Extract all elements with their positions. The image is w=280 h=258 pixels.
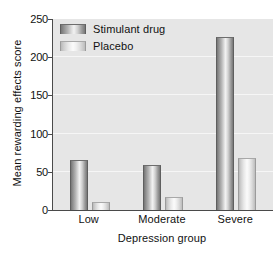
legend-swatch-icon [60, 24, 86, 34]
y-tick-label: 250 [22, 13, 48, 25]
y-tick-label: 0 [22, 204, 48, 216]
x-tick-label: Moderate [138, 213, 185, 225]
x-tick-label: Severe [218, 213, 253, 225]
x-axis-ticks: LowModerateSevere [52, 213, 272, 229]
gridline [53, 94, 273, 95]
y-tick-label: 100 [22, 128, 48, 140]
y-tick-label: 150 [22, 89, 48, 101]
chart-legend: Stimulant drugPlacebo [60, 22, 190, 56]
bar-chart-figure: Mean rewarding effects score 05010015020… [0, 0, 280, 258]
legend-label: Stimulant drug [93, 23, 165, 35]
legend-item: Placebo [60, 39, 190, 53]
legend-item: Stimulant drug [60, 22, 190, 36]
bar [143, 165, 161, 210]
bar [238, 158, 256, 210]
gridline [53, 133, 273, 134]
gridline [53, 56, 273, 57]
y-axis-ticks: 050100150200250 [22, 0, 48, 258]
y-tick-label: 200 [22, 51, 48, 63]
bar [216, 37, 234, 210]
y-tick-label: 50 [22, 166, 48, 178]
legend-swatch-icon [60, 41, 86, 51]
bar [92, 202, 110, 210]
x-tick-label: Low [78, 213, 98, 225]
x-axis-title: Depression group [52, 232, 272, 244]
legend-label: Placebo [93, 40, 133, 52]
bar [70, 160, 88, 210]
bar [165, 197, 183, 210]
